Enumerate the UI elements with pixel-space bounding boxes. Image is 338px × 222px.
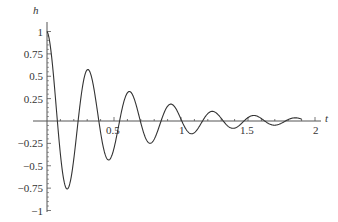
y-tick-label: 1 (38, 26, 44, 38)
x-axis: 0.511.52 (33, 117, 321, 136)
x-tick-label: 2 (313, 124, 319, 136)
y-tick-label: −0.5 (23, 160, 43, 172)
y-tick-label: 0.25 (24, 93, 44, 105)
y-axis-label: h (33, 4, 39, 16)
chart: 0.511.52 10.750.50.25−0.25−0.5−0.75−1 h … (0, 0, 338, 222)
y-tick-label: −0.75 (18, 182, 44, 194)
y-tick-label: −0.25 (18, 137, 44, 149)
y-tick-label: −1 (31, 205, 43, 217)
x-axis-label: t (325, 112, 329, 124)
x-tick-label: 1.5 (240, 124, 254, 136)
data-line (47, 32, 302, 189)
y-tick-label: 0.75 (24, 48, 44, 60)
y-axis: 10.750.50.25−0.25−0.5−0.75−1 (18, 22, 51, 217)
y-tick-label: 0.5 (29, 70, 43, 82)
